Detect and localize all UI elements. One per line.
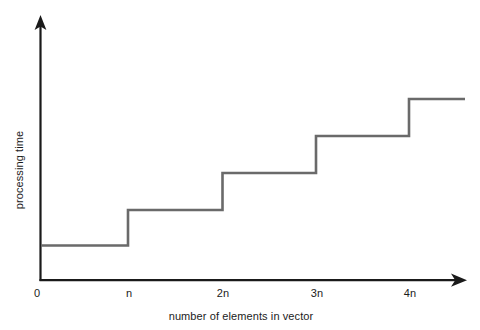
x-tick-label-3n: 3n (311, 287, 323, 299)
x-axis-title: number of elements in vector (169, 310, 314, 322)
step-line-processing-time (41, 99, 465, 246)
y-axis-title: processing time (13, 131, 25, 210)
chart-canvas (0, 0, 480, 330)
x-tick-label-2n: 2n (217, 287, 229, 299)
x-tick-label-0: 0 (34, 287, 40, 299)
x-tick-label-n: n (126, 287, 132, 299)
step-series-group (41, 99, 465, 246)
step-chart-figure: 0 n 2n 3n 4n number of elements in vecto… (0, 0, 480, 330)
x-tick-label-4n: 4n (404, 287, 416, 299)
